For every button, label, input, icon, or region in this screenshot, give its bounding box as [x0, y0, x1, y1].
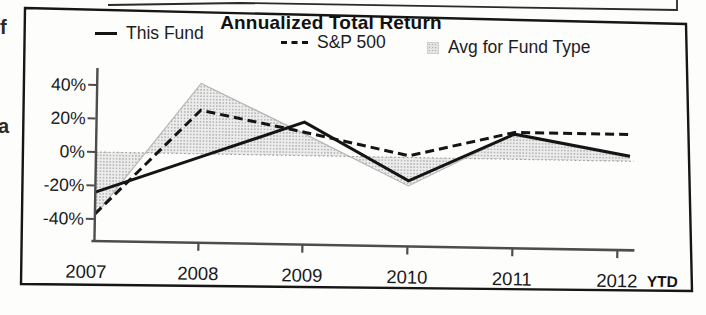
y-tick-label: 40% — [51, 74, 86, 95]
plot-area: 40%20%0%-20%-40%200720082009201020112012… — [42, 67, 681, 292]
legend-item-avg-fund-type: Avg for Fund Type — [427, 37, 590, 58]
legend-item-this-fund: This Fund — [95, 23, 204, 44]
series-area-avg-fund-type — [95, 82, 631, 225]
y-tick-label: -40% — [43, 208, 84, 229]
legend-marker-shaded-square-icon — [427, 42, 439, 54]
legend-label-this-fund: This Fund — [126, 23, 204, 44]
legend-label-avg-fund-type: Avg for Fund Type — [448, 37, 590, 58]
x-tick-label: 2011 — [492, 268, 532, 290]
y-tick-label: 0% — [60, 141, 86, 161]
ytd-label: YTD — [647, 273, 678, 291]
legend-item-sp500: S&P 500 — [281, 32, 386, 53]
scanned-page: { "page": { "marginalia": { "glyph_top":… — [0, 0, 706, 315]
x-tick-label: 2009 — [281, 264, 323, 286]
x-tick-label: 2007 — [65, 260, 107, 282]
legend-marker-solid-line-icon — [95, 32, 117, 35]
y-tick-label: -20% — [43, 175, 84, 196]
x-axis — [91, 241, 634, 250]
legend-marker-dashed-line-icon — [281, 41, 308, 44]
upper-box-border — [108, 0, 677, 10]
x-tick-label: 2010 — [386, 266, 428, 288]
x-tick-label: 2012 — [596, 270, 638, 292]
y-axis — [94, 68, 97, 241]
y-tick-label: 20% — [50, 108, 85, 129]
legend-label-sp500: S&P 500 — [317, 32, 386, 53]
x-tick-label: 2008 — [177, 262, 219, 284]
